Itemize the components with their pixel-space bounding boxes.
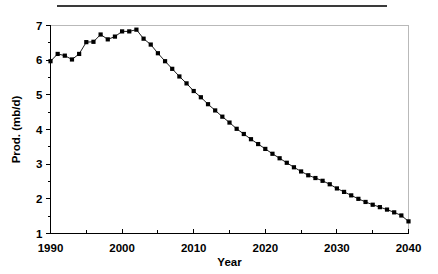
marker-2023 bbox=[285, 161, 289, 165]
marker-2037 bbox=[385, 207, 389, 211]
marker-2015 bbox=[227, 120, 231, 124]
series-production bbox=[48, 28, 410, 224]
marker-1993 bbox=[70, 57, 74, 61]
x-axis-ticks bbox=[51, 229, 409, 234]
chart-figure: 1234567 199020002010202020302040 Year Pr… bbox=[0, 0, 438, 274]
y-axis-ticks bbox=[46, 26, 51, 234]
marker-2033 bbox=[356, 197, 360, 201]
marker-2021 bbox=[270, 152, 274, 156]
marker-2028 bbox=[320, 179, 324, 183]
marker-2019 bbox=[256, 142, 260, 146]
line-chart: 1234567 199020002010202020302040 Year Pr… bbox=[0, 0, 438, 274]
marker-2030 bbox=[335, 186, 339, 190]
marker-2011 bbox=[199, 95, 203, 99]
x-tick-label-2000: 2000 bbox=[109, 242, 135, 254]
x-axis-title: Year bbox=[217, 256, 242, 268]
marker-1999 bbox=[113, 34, 117, 38]
marker-2025 bbox=[299, 169, 303, 173]
marker-2024 bbox=[292, 165, 296, 169]
series-markers-production bbox=[48, 28, 410, 224]
y-tick-label-4: 4 bbox=[36, 124, 43, 136]
x-axis-tick-labels: 199020002010202020302040 bbox=[38, 242, 422, 254]
marker-2036 bbox=[378, 205, 382, 209]
series-line-production bbox=[51, 30, 409, 222]
marker-2031 bbox=[342, 190, 346, 194]
marker-2002 bbox=[134, 28, 138, 32]
x-tick-label-1990: 1990 bbox=[38, 242, 64, 254]
marker-1994 bbox=[77, 52, 81, 56]
marker-2026 bbox=[306, 173, 310, 177]
marker-2035 bbox=[371, 203, 375, 207]
marker-2010 bbox=[192, 89, 196, 93]
y-axis-title: Prod. (mb/d) bbox=[10, 95, 22, 163]
y-tick-label-6: 6 bbox=[36, 54, 42, 66]
y-axis-tick-labels: 1234567 bbox=[36, 20, 43, 240]
marker-2005 bbox=[156, 51, 160, 55]
marker-2001 bbox=[127, 29, 131, 33]
marker-2014 bbox=[220, 115, 224, 119]
marker-2004 bbox=[149, 42, 153, 46]
plot-frame bbox=[51, 26, 409, 234]
marker-2008 bbox=[177, 74, 181, 78]
marker-1992 bbox=[63, 54, 67, 58]
marker-2007 bbox=[170, 67, 174, 71]
x-tick-label-2030: 2030 bbox=[324, 242, 350, 254]
marker-2012 bbox=[206, 102, 210, 106]
x-tick-label-2040: 2040 bbox=[396, 242, 422, 254]
marker-2038 bbox=[392, 210, 396, 214]
marker-2032 bbox=[349, 193, 353, 197]
marker-1990 bbox=[48, 59, 52, 63]
marker-2029 bbox=[328, 182, 332, 186]
marker-2016 bbox=[235, 127, 239, 131]
marker-2020 bbox=[263, 147, 267, 151]
marker-2009 bbox=[184, 81, 188, 85]
marker-1997 bbox=[99, 32, 103, 36]
marker-1996 bbox=[91, 40, 95, 44]
x-tick-label-2020: 2020 bbox=[253, 242, 279, 254]
plot-area: 1234567 199020002010202020302040 Year Pr… bbox=[0, 0, 438, 274]
axes bbox=[51, 26, 409, 234]
y-tick-label-3: 3 bbox=[36, 158, 42, 170]
marker-2018 bbox=[249, 137, 253, 141]
marker-2017 bbox=[242, 132, 246, 136]
marker-2034 bbox=[363, 200, 367, 204]
y-tick-label-5: 5 bbox=[36, 89, 43, 101]
marker-2013 bbox=[213, 108, 217, 112]
marker-2040 bbox=[406, 219, 410, 223]
y-tick-label-2: 2 bbox=[36, 193, 42, 205]
marker-2039 bbox=[399, 213, 403, 217]
marker-2027 bbox=[313, 176, 317, 180]
marker-1998 bbox=[106, 37, 110, 41]
y-tick-label-7: 7 bbox=[36, 20, 42, 32]
marker-2006 bbox=[163, 59, 167, 63]
marker-2000 bbox=[120, 29, 124, 33]
marker-1995 bbox=[84, 40, 88, 44]
marker-2003 bbox=[141, 37, 145, 41]
y-tick-label-1: 1 bbox=[36, 228, 43, 240]
marker-1991 bbox=[56, 52, 60, 56]
x-tick-label-2010: 2010 bbox=[181, 242, 207, 254]
marker-2022 bbox=[278, 156, 282, 160]
